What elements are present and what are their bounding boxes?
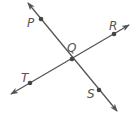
- labels-group: PQRTS: [21, 16, 117, 101]
- point-t-dot: [28, 81, 33, 86]
- point-p-label: P: [27, 16, 35, 30]
- point-s-dot: [97, 88, 102, 93]
- point-r-label: R: [109, 19, 117, 33]
- point-s-label: S: [87, 87, 95, 101]
- point-q-dot: [70, 57, 75, 62]
- point-p-dot: [39, 17, 44, 22]
- geometry-diagram: PQRTS: [0, 0, 136, 115]
- point-q-label: Q: [67, 41, 76, 55]
